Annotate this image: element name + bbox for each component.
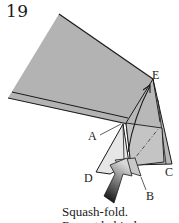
- label-B: B: [146, 189, 154, 203]
- origami-diagram: E A C D B: [0, 0, 179, 223]
- label-A: A: [88, 129, 97, 143]
- label-E: E: [152, 68, 159, 82]
- caption-line-2: Repeat behind.: [62, 219, 140, 223]
- label-D: D: [84, 171, 93, 185]
- instruction-caption: Squash-fold. Repeat behind.: [62, 205, 140, 223]
- label-C: C: [165, 165, 173, 179]
- caption-line-1: Squash-fold.: [62, 204, 128, 219]
